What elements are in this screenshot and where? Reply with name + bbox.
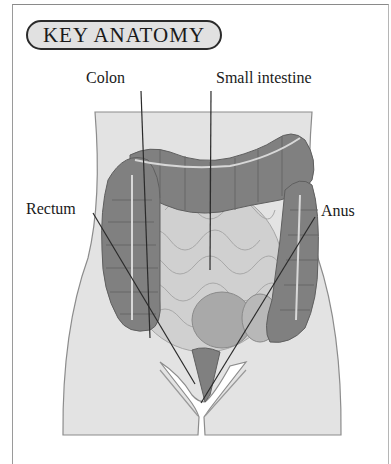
label-anus: Anus bbox=[321, 202, 355, 220]
label-rectum: Rectum bbox=[26, 200, 76, 218]
label-small-intestine: Small intestine bbox=[216, 69, 312, 87]
label-colon: Colon bbox=[86, 69, 125, 87]
